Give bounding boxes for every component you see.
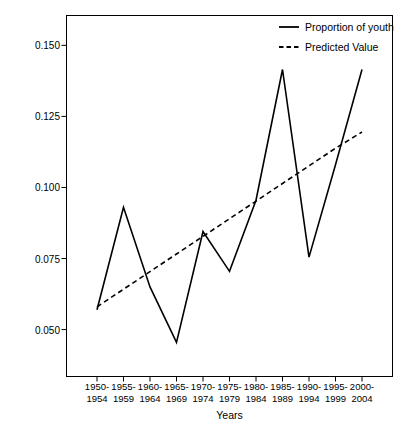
chart-figure: Proportion of youth Predicted Value 0.05… xyxy=(0,0,407,433)
x-tick-label-line: 2004 xyxy=(340,393,384,405)
x-axis-title: Years xyxy=(66,409,393,421)
x-tick-label-line: 2000- xyxy=(340,381,384,393)
x-tick-label: 2000-2004 xyxy=(340,381,384,404)
x-axis-tick-labels: 1950-19541955-19591960-19641965-19691970… xyxy=(0,0,407,433)
